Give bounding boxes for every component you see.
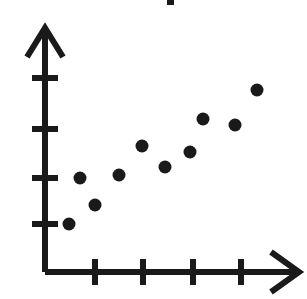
data-point <box>251 84 264 97</box>
y-axis-group <box>27 28 63 272</box>
data-point-series <box>63 84 264 231</box>
data-point <box>229 119 242 132</box>
data-point <box>136 140 149 153</box>
x-axis-group <box>45 252 299 292</box>
data-point <box>113 169 126 182</box>
cropped-title-fragment <box>167 0 174 5</box>
data-point <box>74 172 87 185</box>
plot-canvas <box>0 0 307 299</box>
data-point <box>89 199 102 212</box>
data-point <box>63 218 76 231</box>
data-point <box>197 113 210 126</box>
data-point <box>184 146 197 159</box>
data-point <box>159 161 172 174</box>
scatter-plot-figure: Scatter plot with ten black dots showing… <box>0 0 307 299</box>
